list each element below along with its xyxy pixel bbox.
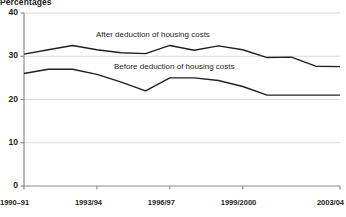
x-tick-label: 2003/04: [317, 198, 344, 207]
y-tick-label: 30: [2, 50, 18, 60]
series-label-2: Before deduction of housing costs: [113, 62, 236, 71]
y-tick-label: 20: [2, 94, 18, 104]
x-tick-label: 1996/97: [148, 198, 175, 207]
tick-marks-group: [21, 13, 341, 190]
x-tick-label: 1993/94: [75, 198, 102, 207]
x-tick-label: 1999/2000: [221, 198, 256, 207]
chart-container: Percentages 010203040 1990–911993/941996…: [0, 0, 346, 217]
x-tick-label: 1990–91: [0, 198, 29, 207]
y-tick-label: 0: [2, 180, 18, 190]
y-tick-label: 10: [2, 137, 18, 147]
series-label-1: After deduction of housing costs: [95, 30, 211, 39]
series-line-2: [24, 69, 340, 95]
y-tick-label: 40: [2, 7, 18, 17]
